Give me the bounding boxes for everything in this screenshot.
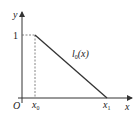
y-axis-label: y <box>12 9 18 20</box>
y-tick-one: 1 <box>13 30 18 41</box>
origin-label: O <box>13 100 20 111</box>
function-line <box>35 35 107 98</box>
x0-label: x0 <box>31 99 39 111</box>
x1-label: x1 <box>102 99 110 111</box>
x-axis-label: x <box>124 101 130 112</box>
curve-label: l0(x) <box>72 48 90 60</box>
function-graph: y x O 1 x0 x1 l0(x) <box>0 0 139 117</box>
